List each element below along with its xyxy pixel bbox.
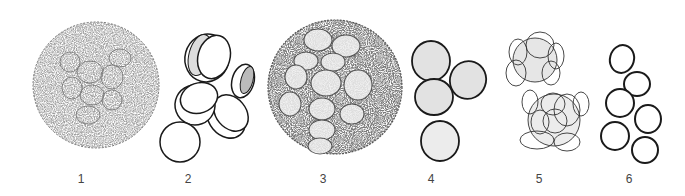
panel-6-label: 6 xyxy=(619,172,639,186)
panel-4-cells xyxy=(412,41,491,161)
panel-3-label: 3 xyxy=(313,172,333,186)
panel-2-label: 2 xyxy=(178,172,198,186)
panel-2-cells xyxy=(160,29,258,162)
panel-5-label: 5 xyxy=(529,172,549,186)
panel-3-colony xyxy=(268,20,402,154)
panel-6-cells xyxy=(601,42,661,163)
panel-4-label: 4 xyxy=(421,172,441,186)
panel-1-label: 1 xyxy=(71,172,91,186)
figure-canvas xyxy=(0,0,685,196)
panel-1-colony xyxy=(33,22,159,148)
panel-5-clusters xyxy=(506,32,589,151)
